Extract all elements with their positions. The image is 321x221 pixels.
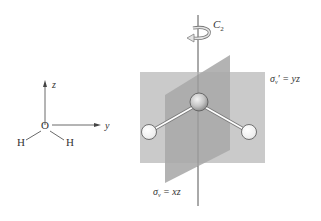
oh-bond-left xyxy=(26,131,41,140)
oxygen-atom xyxy=(190,93,208,111)
y-axis-label: y xyxy=(104,120,110,131)
symmetry-elements: C2 σv' = yz σv = xz xyxy=(140,15,300,206)
c2-label: C2 xyxy=(213,18,224,33)
sigma-v-label: σv = xz xyxy=(153,186,181,198)
sigma-v-prime-label: σv' = yz xyxy=(270,73,300,85)
hydrogen-left-label: H xyxy=(17,136,25,148)
hydrogen-atom-right xyxy=(242,125,257,140)
oxygen-label: O xyxy=(41,119,49,131)
z-axis-arrow-icon xyxy=(43,80,47,87)
oh-bond-right xyxy=(50,131,64,140)
water-symmetry-diagram: z y O H H xyxy=(0,0,321,221)
y-axis-arrow-icon xyxy=(94,123,101,127)
hydrogen-right-label: H xyxy=(66,136,74,148)
z-axis-label: z xyxy=(51,79,56,90)
coordinate-axes: z y O H H xyxy=(17,79,110,148)
hydrogen-atom-left xyxy=(142,125,157,140)
